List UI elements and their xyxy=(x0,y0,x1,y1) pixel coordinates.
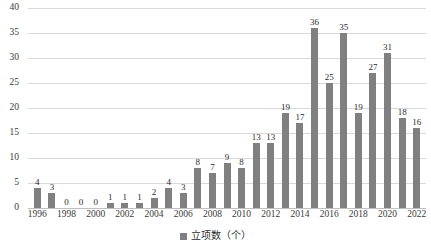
x-tick-label-2022: 2022 xyxy=(407,210,426,220)
bar-chart: 0510152025303540 43000111243879813131917… xyxy=(0,0,431,251)
bar xyxy=(224,163,231,208)
bar xyxy=(355,113,362,208)
bar-value-label: 0 xyxy=(64,198,69,207)
bar xyxy=(267,143,274,208)
bar xyxy=(311,28,318,208)
bar xyxy=(413,128,420,208)
bar-value-label: 2 xyxy=(152,188,157,197)
bar-slot: 2 xyxy=(147,8,162,208)
plot-area: 0510152025303540 43000111243879813131917… xyxy=(28,8,426,208)
y-tick-label-0: 0 xyxy=(0,203,19,213)
bar xyxy=(384,53,391,208)
x-axis-tick-labels: 1996199820002002200420062008201020122014… xyxy=(28,209,426,223)
bar-slot: 18 xyxy=(395,8,410,208)
bar xyxy=(238,168,245,208)
bar-value-label: 8 xyxy=(196,158,201,167)
bar-value-label: 1 xyxy=(108,193,113,202)
bar-value-label: 1 xyxy=(123,193,128,202)
x-tick-slot: 2014 xyxy=(293,209,308,223)
bar-slot: 13 xyxy=(264,8,279,208)
y-tick-label-25: 25 xyxy=(0,78,19,88)
bar xyxy=(253,143,260,208)
bar-slot: 0 xyxy=(88,8,103,208)
bar xyxy=(282,113,289,208)
bar-slot: 8 xyxy=(191,8,206,208)
bar-slot: 13 xyxy=(249,8,264,208)
bar-value-label: 8 xyxy=(239,158,244,167)
x-tick-slot: 2002 xyxy=(118,209,133,223)
bar-slot: 19 xyxy=(278,8,293,208)
bar-slot: 17 xyxy=(293,8,308,208)
bar-value-label: 35 xyxy=(339,23,348,32)
x-tick-slot: 2020 xyxy=(380,209,395,223)
bar-slot: 4 xyxy=(161,8,176,208)
bar-value-label: 4 xyxy=(166,178,171,187)
y-tick-label-10: 10 xyxy=(0,153,19,163)
bar xyxy=(369,73,376,208)
bar xyxy=(34,188,41,208)
bar xyxy=(48,193,55,208)
bar-value-label: 13 xyxy=(252,133,261,142)
y-tick-label-40: 40 xyxy=(0,3,19,13)
bar-slot: 25 xyxy=(322,8,337,208)
bar xyxy=(194,168,201,208)
bar-value-label: 19 xyxy=(281,103,290,112)
bar-value-label: 31 xyxy=(383,43,392,52)
bar xyxy=(121,203,128,208)
y-tick-label-20: 20 xyxy=(0,103,19,113)
bar xyxy=(209,173,216,208)
bar-slot: 1 xyxy=(132,8,147,208)
bar-slot: 9 xyxy=(220,8,235,208)
bar-value-label: 9 xyxy=(225,153,230,162)
bar-slot: 36 xyxy=(307,8,322,208)
x-tick-slot: 2018 xyxy=(351,209,366,223)
bar xyxy=(180,193,187,208)
x-tick-slot: 1998 xyxy=(59,209,74,223)
bar-value-label: 27 xyxy=(368,63,377,72)
bar-value-label: 25 xyxy=(325,73,334,82)
bar-series: 430001112438798131319173625351927311816 xyxy=(28,8,426,208)
bar-value-label: 0 xyxy=(79,198,84,207)
x-tick-slot: 2006 xyxy=(176,209,191,223)
bar xyxy=(296,123,303,208)
x-tick-slot: 2000 xyxy=(88,209,103,223)
bar-value-label: 13 xyxy=(266,133,275,142)
bar-slot: 35 xyxy=(336,8,351,208)
bar-value-label: 17 xyxy=(295,113,304,122)
bar-value-label: 1 xyxy=(137,193,142,202)
x-tick-slot: 2022 xyxy=(409,209,424,223)
bar-slot: 0 xyxy=(74,8,89,208)
y-tick-label-30: 30 xyxy=(0,53,19,63)
bar xyxy=(136,203,143,208)
chart-legend: 立项数（个） xyxy=(0,231,431,241)
bar-slot: 7 xyxy=(205,8,220,208)
bar xyxy=(107,203,114,208)
bar-value-label: 7 xyxy=(210,163,215,172)
bar-slot: 3 xyxy=(45,8,60,208)
bar-slot: 1 xyxy=(118,8,133,208)
legend-label: 立项数（个） xyxy=(191,231,251,241)
bar xyxy=(165,188,172,208)
bar-slot: 31 xyxy=(380,8,395,208)
bar-value-label: 18 xyxy=(398,108,407,117)
legend-swatch-icon xyxy=(180,233,187,240)
bar-value-label: 0 xyxy=(93,198,98,207)
bar-slot: 1 xyxy=(103,8,118,208)
y-tick-label-5: 5 xyxy=(0,178,19,188)
bar xyxy=(326,83,333,208)
bar xyxy=(399,118,406,208)
y-tick-label-15: 15 xyxy=(0,128,19,138)
x-tick-slot: 2010 xyxy=(234,209,249,223)
bar-slot: 16 xyxy=(409,8,424,208)
bar xyxy=(340,33,347,208)
bar-value-label: 19 xyxy=(354,103,363,112)
bar-value-label: 16 xyxy=(412,118,421,127)
bar-slot: 19 xyxy=(351,8,366,208)
y-tick-label-35: 35 xyxy=(0,28,19,38)
bar-value-label: 4 xyxy=(35,178,40,187)
x-tick-slot: 2008 xyxy=(205,209,220,223)
bar-slot: 27 xyxy=(366,8,381,208)
bar xyxy=(151,198,158,208)
bar-slot: 4 xyxy=(30,8,45,208)
x-tick-slot: 2004 xyxy=(147,209,162,223)
